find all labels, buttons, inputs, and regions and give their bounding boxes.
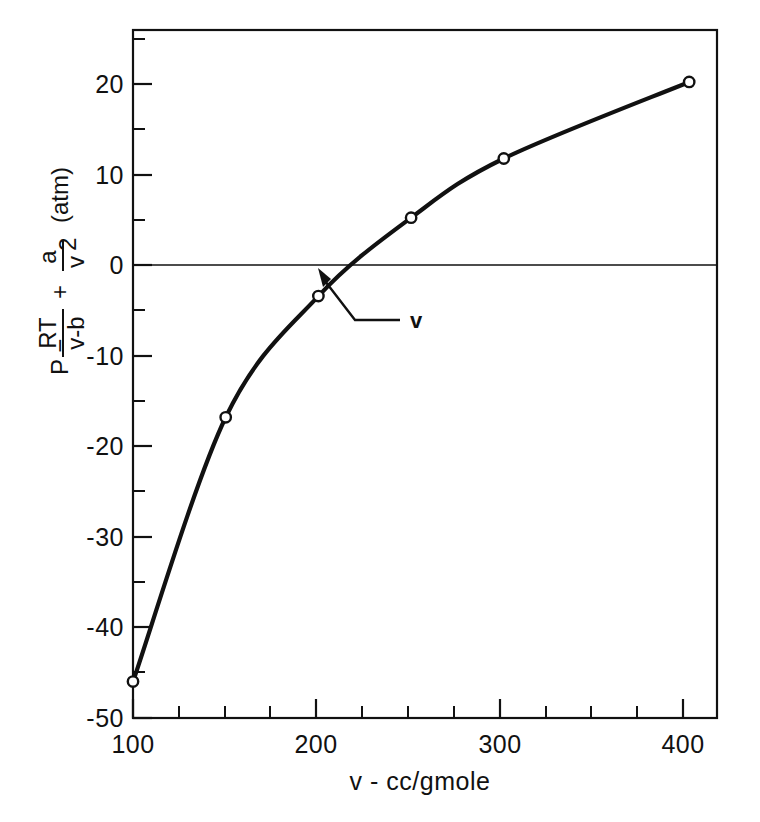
x-axis-tick-labels: 100 200 300 400 (111, 730, 704, 758)
figure-container: -50 -40 -30 -20 -10 0 10 20 100 200 300 … (0, 0, 760, 822)
y-axis-title: P − RT v-b + a v 2 (atm) (34, 167, 89, 375)
y-tick-label: 0 (110, 251, 124, 279)
y-tick-label: -40 (86, 613, 124, 641)
y-axis-title-frac2-exponent: 2 (54, 238, 81, 251)
data-point-marker (406, 213, 416, 223)
annotation-label-v: v (410, 308, 423, 333)
y-tick-label: -10 (86, 342, 124, 370)
y-axis-title-frac1-denominator: v-b (62, 316, 89, 349)
x-axis-minor-ticks (179, 706, 637, 718)
data-point-marker (221, 412, 231, 422)
y-axis-title-plus: + (46, 285, 73, 299)
y-tick-label: -30 (86, 523, 124, 551)
x-tick-label: 200 (294, 730, 337, 758)
y-axis-tick-labels: -50 -40 -30 -20 -10 0 10 20 (86, 70, 124, 732)
y-tick-label: 10 (95, 161, 124, 189)
x-tick-label: 300 (478, 730, 521, 758)
data-point-marker (499, 153, 509, 163)
data-point-marker (128, 676, 138, 686)
chart-canvas: -50 -40 -30 -20 -10 0 10 20 100 200 300 … (0, 0, 760, 822)
x-tick-label: 400 (661, 730, 704, 758)
y-tick-label: -50 (86, 704, 124, 732)
y-axis-title-units: (atm) (46, 167, 73, 223)
data-point-markers (128, 77, 695, 687)
y-tick-label: 20 (95, 70, 124, 98)
data-point-marker (313, 291, 323, 301)
y-tick-label: -20 (86, 432, 124, 460)
x-axis-title: v - cc/gmole (350, 767, 491, 795)
annotation-leader-line (325, 281, 400, 320)
x-tick-label: 100 (111, 730, 154, 758)
plot-frame (133, 30, 717, 718)
data-series-curve (133, 82, 689, 682)
y-axis-title-frac1-numerator: RT (34, 317, 61, 349)
data-point-marker (684, 77, 694, 87)
y-axis-title-frac2-denominator: v (62, 256, 89, 268)
